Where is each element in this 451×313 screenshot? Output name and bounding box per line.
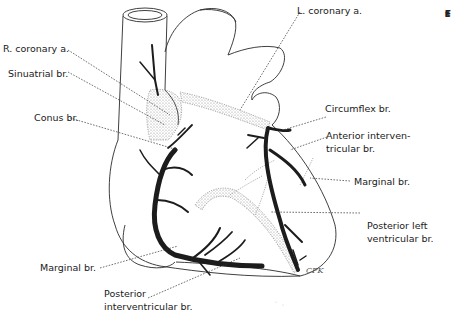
label-posterior-interventricular-2: interventricular br. (104, 301, 193, 312)
label-anterior-interventricular-1: Anterior interven- (326, 130, 410, 141)
label-circumflex-branch: Circumflex br. (325, 103, 391, 114)
scan-speckle (275, 301, 283, 305)
label-posterior-left-ventricular-1: Posterior left (367, 220, 427, 231)
label-marginal-branch-right: Marginal br. (40, 262, 96, 273)
label-sinuatrial-branch: Sinuatrial br. (8, 68, 68, 79)
label-marginal-branch-left: Marginal br. (354, 176, 410, 187)
heart-outline (109, 8, 336, 276)
label-l-coronary-artery: L. coronary a. (297, 5, 362, 16)
label-posterior-left-ventricular-2: ventricular br. (367, 233, 433, 244)
artist-signature: CPK (306, 266, 323, 275)
leader-lines (68, 12, 360, 298)
cutoff-line: L (445, 8, 450, 20)
label-posterior-interventricular-1: Posterior (104, 288, 146, 299)
label-anterior-interventricular-2: tricular br. (326, 143, 375, 154)
label-r-coronary-artery: R. coronary a. (3, 43, 69, 54)
label-conus-branch: Conus br. (34, 112, 79, 123)
